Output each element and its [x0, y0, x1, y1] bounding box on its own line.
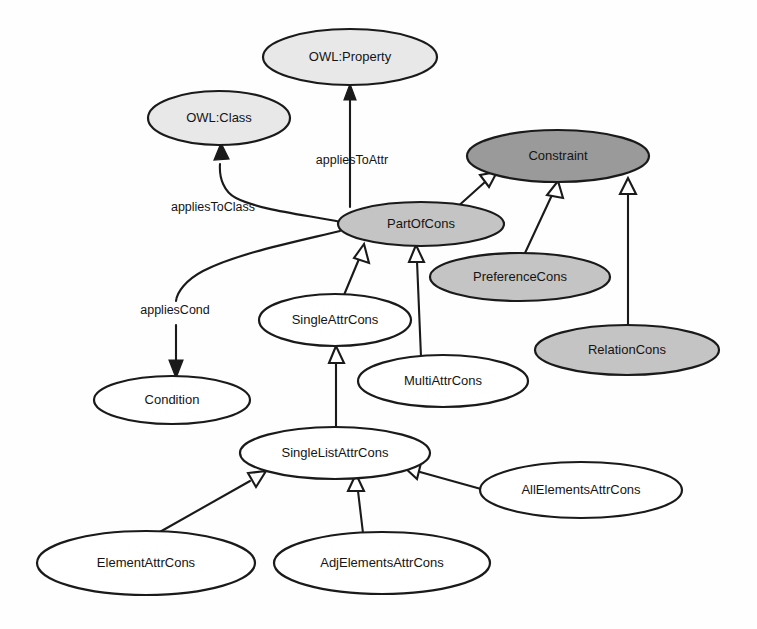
- edge-curve-applies-cond: [176, 231, 340, 301]
- edge-singlelistattrcons-to-singleattrcons: [329, 346, 344, 428]
- edge-line-element-singlelist: [158, 481, 250, 533]
- edge-adjelementsattrcons-to-singlelistattrcons: [348, 474, 364, 533]
- node-label-singlelistattrcons: SingleListAttrCons: [282, 445, 389, 460]
- edge-multiattrcons-to-partofcons: [409, 245, 424, 357]
- node-label-adjelementsattrcons: AdjElementsAttrCons: [320, 555, 444, 570]
- edge-line-singleattrcons-partofcons: [344, 259, 359, 295]
- node-owl-property[interactable]: OWL:Property: [263, 29, 437, 85]
- edge-label-applies-to-class: appliesToClass: [171, 200, 255, 214]
- edge-line-adjelements-singlelist: [358, 491, 363, 533]
- edge-elementattrcons-to-singlelistattrcons: [158, 471, 266, 533]
- edge-label-applies-to-attr: appliesToAttr: [316, 153, 388, 167]
- node-multiattrcons[interactable]: MultiAttrCons: [358, 355, 528, 407]
- node-label-condition: Condition: [145, 392, 200, 407]
- node-label-allelementsattrcons: AllElementsAttrCons: [521, 482, 641, 497]
- hollow-arrowhead-singlelist-singleattr: [329, 346, 344, 363]
- hollow-arrowhead-multiattrcons-partofcons: [409, 245, 424, 262]
- edge-line-allelements-singlelist: [420, 472, 481, 489]
- node-label-multiattrcons: MultiAttrCons: [404, 373, 483, 388]
- node-label-singleattrcons: SingleAttrCons: [292, 312, 379, 327]
- node-owl-class[interactable]: OWL:Class: [148, 91, 290, 145]
- hollow-arrowhead-singleattrcons-partofcons: [354, 244, 369, 263]
- node-label-relationcons: RelationCons: [588, 342, 667, 357]
- edge-partofcons-to-constraint: [455, 172, 497, 209]
- solid-arrowhead-applies-to-attr: [344, 84, 356, 100]
- hollow-arrowhead-element-singlelist: [248, 471, 266, 487]
- node-constraint[interactable]: Constraint: [467, 130, 649, 182]
- node-label-preferencecons: PreferenceCons: [473, 269, 567, 284]
- node-label-owl-class: OWL:Class: [186, 110, 252, 125]
- edge-label-applies-cond: appliesCond: [140, 303, 210, 317]
- edge-singleattrcons-to-partofcons: [344, 244, 369, 295]
- node-elementattrcons[interactable]: ElementAttrCons: [37, 531, 255, 595]
- node-allelementsattrcons[interactable]: AllElementsAttrCons: [480, 462, 682, 518]
- node-singleattrcons[interactable]: SingleAttrCons: [259, 294, 411, 346]
- ontology-diagram: OWL:Property OWL:Class Constraint PartOf…: [0, 0, 757, 629]
- hollow-arrowhead-relationcons-constraint: [620, 178, 636, 194]
- node-label-partofcons: PartOfCons: [387, 216, 455, 231]
- hollow-arrowhead-preferencecons-constraint: [547, 181, 563, 198]
- diagram-canvas: OWL:Property OWL:Class Constraint PartOf…: [0, 0, 757, 629]
- node-singlelistattrcons[interactable]: SingleListAttrCons: [240, 427, 430, 479]
- node-label-constraint: Constraint: [528, 148, 588, 163]
- edge-line-preferencecons-constraint: [525, 195, 552, 253]
- node-label-owl-property: OWL:Property: [309, 49, 392, 64]
- node-partofcons[interactable]: PartOfCons: [338, 202, 504, 246]
- node-adjelementsattrcons[interactable]: AdjElementsAttrCons: [274, 532, 490, 594]
- edge-partofcons-to-owlproperty: [344, 84, 356, 207]
- node-preferencecons[interactable]: PreferenceCons: [430, 253, 610, 301]
- edge-relationcons-to-constraint: [620, 178, 636, 326]
- node-relationcons[interactable]: RelationCons: [535, 325, 719, 375]
- edge-line-multiattrcons-partofcons: [417, 261, 421, 357]
- edge-preferencecons-to-constraint: [525, 181, 563, 253]
- node-label-elementattrcons: ElementAttrCons: [97, 555, 196, 570]
- node-condition[interactable]: Condition: [94, 376, 250, 424]
